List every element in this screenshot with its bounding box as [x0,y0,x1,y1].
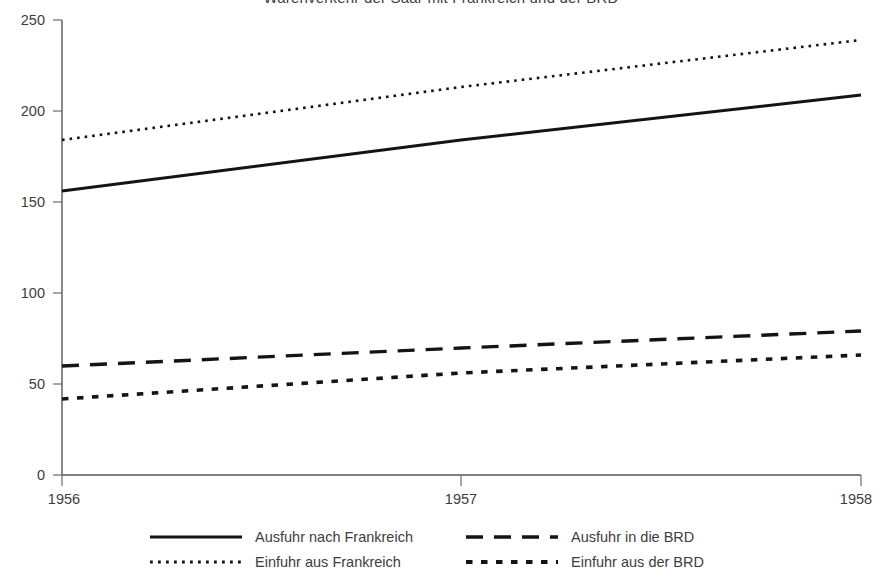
legend-label-ausfuhr-nach-frankreich: Ausfuhr nach Frankreich [255,529,413,545]
legend-entry-einfuhr-aus-frankreich[interactable]: Einfuhr aus Frankreich [150,554,466,570]
dotted-line-swatch [150,556,242,568]
legend-entry-ausfuhr-in-die-brd[interactable]: Ausfuhr in die BRD [466,529,782,545]
legend-label-einfuhr-aus-der-brd: Einfuhr aus der BRD [571,554,704,570]
series-line-ausfuhr-nach-frankreich [62,95,861,191]
dashed-line-swatch [466,531,558,543]
y-tick-label-250: 250 [0,12,45,28]
solid-line-swatch [150,531,242,543]
y-tick-label-200: 200 [0,103,45,119]
plot-area [0,0,882,574]
line-chart: Warenverkehr der Saar mit Frankreich und… [0,0,882,574]
y-axis-ticks [53,20,62,475]
legend-entry-ausfuhr-nach-frankreich[interactable]: Ausfuhr nach Frankreich [150,529,466,545]
square-dotted-line-swatch [466,556,558,568]
y-tick-label-0: 0 [0,467,45,483]
chart-legend: Ausfuhr nach Frankreich Ausfuhr in die B… [150,524,850,574]
series-line-einfuhr-aus-frankreich [62,40,861,140]
legend-label-einfuhr-aus-frankreich: Einfuhr aus Frankreich [255,554,401,570]
x-tick-label-1956: 1956 [48,491,80,507]
y-tick-label-50: 50 [0,376,45,392]
y-tick-label-100: 100 [0,285,45,301]
x-tick-label-1958: 1958 [840,491,872,507]
x-axis-ticks [62,475,861,486]
legend-label-ausfuhr-in-die-brd: Ausfuhr in die BRD [571,529,694,545]
legend-entry-einfuhr-aus-der-brd[interactable]: Einfuhr aus der BRD [466,554,782,570]
y-tick-label-150: 150 [0,194,45,210]
x-tick-label-1957: 1957 [445,491,477,507]
